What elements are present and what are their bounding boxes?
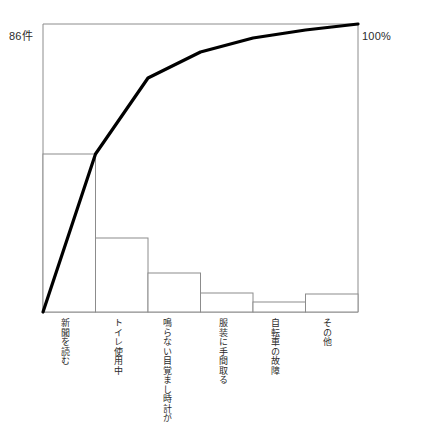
category-label-3-line-2: 鳴らない — [162, 318, 172, 356]
bar-3 — [148, 273, 201, 312]
bar-6 — [306, 294, 359, 312]
secondary-y-axis-max-label: 100% — [362, 31, 391, 42]
category-label-5: 自転車の故障 — [270, 318, 280, 406]
category-label-3-line-1: 目覚まし時計が — [162, 356, 172, 423]
category-label-1: 新聞を読む — [60, 318, 70, 406]
bar-4 — [201, 293, 254, 312]
category-label-4: 服装に手間取る — [218, 318, 228, 406]
y-axis-max-label: 86件 — [9, 31, 33, 42]
bar-series — [43, 154, 358, 312]
category-label-6: その他 — [322, 318, 332, 406]
bar-5 — [253, 302, 306, 312]
category-label-2: トイレ使用中 — [113, 318, 123, 406]
category-label-3: 鳴らない 目覚まし時計が — [162, 318, 172, 406]
bar-2 — [96, 238, 149, 312]
